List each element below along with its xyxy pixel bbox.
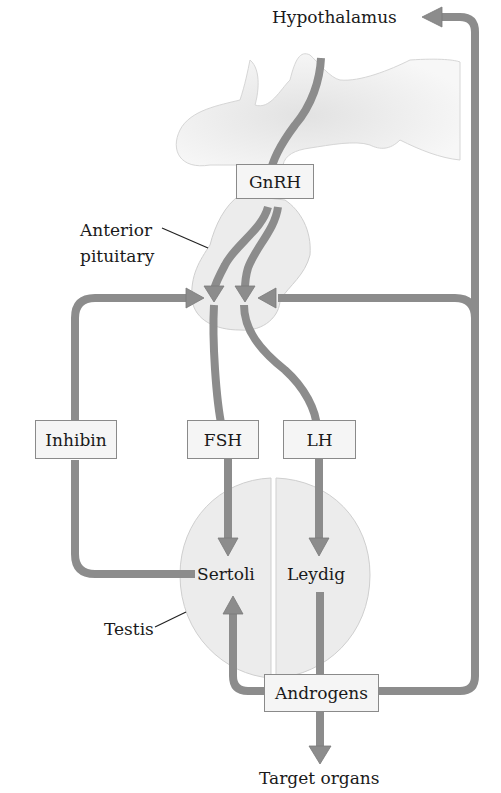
androgens-box: Androgens — [264, 674, 379, 712]
sertoli-label: Sertoli — [197, 566, 255, 583]
arrowhead-target-organs — [309, 746, 331, 764]
anterior-pituitary-leader — [162, 228, 208, 248]
hypothalamus-label: Hypothalamus — [272, 9, 397, 26]
arrowhead-hypothalamus — [422, 7, 442, 27]
diagram-canvas — [0, 0, 501, 793]
inhibin-to-pituitary-path — [75, 298, 188, 430]
testis-label: Testis — [104, 621, 154, 638]
androgens-to-pituitary-path — [278, 298, 475, 318]
leydig-label: Leydig — [287, 566, 345, 583]
anterior-pituitary-label-line1: Anterior — [80, 222, 152, 239]
testis-leader — [155, 612, 186, 627]
fsh-box: FSH — [187, 420, 259, 459]
anterior-pituitary-label-line2: pituitary — [80, 248, 154, 265]
inhibin-box: Inhibin — [35, 420, 117, 459]
target-organs-label: Target organs — [259, 770, 380, 787]
gnrh-box: GnRH — [236, 164, 314, 199]
lh-box: LH — [283, 420, 356, 459]
inhibin-feedback-path — [75, 460, 195, 574]
